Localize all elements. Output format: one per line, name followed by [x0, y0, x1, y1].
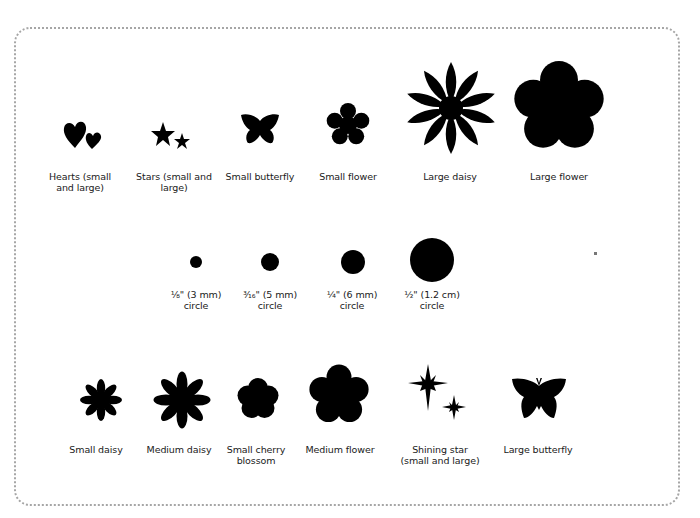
small-flower-icon — [325, 102, 371, 148]
label-medium-flower: Medium flower — [305, 444, 374, 455]
small-daisy-icon — [80, 379, 122, 421]
label-circle-12cm: ½" (1.2 cm) circle — [404, 289, 460, 311]
label-large-butterfly: Large butterfly — [503, 444, 572, 455]
speck — [594, 252, 597, 255]
medium-flower-icon — [308, 364, 370, 426]
circle-12cm-icon — [410, 238, 454, 282]
label-hearts: Hearts (small and large) — [49, 171, 111, 193]
small-cherry-blossom-icon — [236, 377, 280, 421]
large-daisy-icon — [404, 60, 498, 156]
label-medium-daisy: Medium daisy — [147, 444, 212, 455]
label-circle-6mm: ¼" (6 mm) circle — [327, 289, 378, 311]
large-butterfly-icon — [510, 376, 568, 420]
label-stars: Stars (small and large) — [136, 171, 212, 193]
label-large-daisy: Large daisy — [423, 171, 477, 182]
circle-3mm-icon — [190, 256, 202, 268]
label-large-flower: Large flower — [530, 171, 588, 182]
stars-icon — [150, 120, 192, 152]
large-flower-icon — [512, 60, 606, 154]
small-butterfly-icon — [240, 113, 280, 147]
label-shining-star: Shining star (small and large) — [400, 444, 479, 466]
circle-5mm-icon — [261, 253, 279, 271]
label-small-flower: Small flower — [319, 171, 377, 182]
label-circle-3mm: ⅛" (3 mm) circle — [171, 289, 222, 311]
circle-6mm-icon — [341, 250, 365, 274]
medium-daisy-icon — [153, 371, 211, 429]
label-small-daisy: Small daisy — [69, 444, 122, 455]
label-circle-5mm: ³⁄₁₆" (5 mm) circle — [243, 289, 297, 311]
label-small-cherry-blossom: Small cherry blossom — [227, 444, 286, 466]
shining-star-icon — [408, 363, 470, 421]
hearts-icon — [62, 118, 106, 150]
label-small-butterfly: Small butterfly — [226, 171, 295, 182]
